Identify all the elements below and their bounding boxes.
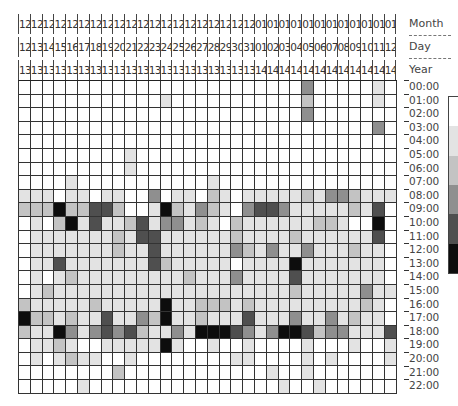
heatmap-cell [196,149,208,163]
day-tick-label: 10 [360,37,372,57]
heatmap-cell [290,108,302,122]
heatmap-cell [385,108,397,122]
heatmap-cell [314,299,326,313]
heatmap-cell [220,81,232,95]
heatmap-cell [149,203,161,217]
heatmap-cell [125,299,137,313]
month-tick-label: 01 [337,14,349,34]
day-tick-label: 11 [372,37,384,57]
heatmap-cell [243,81,255,95]
hour-tick [404,366,409,367]
heatmap-cell [137,285,149,299]
heatmap-cell [208,135,220,149]
heatmap-cell [137,231,149,245]
heatmap-cell [31,258,43,272]
heatmap-cell [290,380,302,394]
heatmap-cell [326,135,338,149]
heatmap-cell [314,190,326,204]
heatmap-cell [208,258,220,272]
heatmap-cell [66,176,78,190]
heatmap-cell [220,285,232,299]
heatmap-cell [196,366,208,380]
heatmap-cell [196,203,208,217]
heatmap-cell [326,326,338,340]
heatmap-cell [361,244,373,258]
heatmap-cell [220,366,232,380]
heatmap-cell [255,299,267,313]
heatmap-cell [326,203,338,217]
heatmap-cell [161,176,173,190]
heatmap-cell [279,312,291,326]
heatmap-cell [19,217,31,231]
heatmap-cell [373,312,385,326]
heatmap-cell [78,135,90,149]
heatmap-cell [102,380,114,394]
heatmap-cell [373,299,385,313]
hour-tick-label: 20:00 [409,352,439,366]
heatmap-cell [349,353,361,367]
heatmap-cell [302,244,314,258]
heatmap-cell [149,163,161,177]
heatmap-cell [113,163,125,177]
heatmap-cell [102,135,114,149]
heatmap-cell [326,122,338,136]
heatmap-cell [196,81,208,95]
heatmap-cell [314,326,326,340]
heatmap-cell [208,271,220,285]
heatmap-cell [314,203,326,217]
year-tick-label: 14 [278,60,290,80]
heatmap-cell [196,95,208,109]
heatmap-cell [220,108,232,122]
heatmap-cell [290,95,302,109]
heatmap-cell [279,122,291,136]
heatmap-cell [349,190,361,204]
hour-tick [404,257,409,258]
heatmap-cell [43,122,55,136]
heatmap-cell [113,203,125,217]
header-separator [409,35,451,36]
heatmap-cell [43,163,55,177]
heatmap-cell [255,135,267,149]
heatmap-cell [172,108,184,122]
heatmap-cell [326,353,338,367]
heatmap-cell [31,81,43,95]
heatmap-cell [125,217,137,231]
heatmap-cell [349,217,361,231]
heatmap-cell [54,122,66,136]
heatmap-cell [208,244,220,258]
heatmap-cell [361,285,373,299]
hour-tick [404,284,409,285]
heatmap-cell [314,366,326,380]
heatmap-cell [125,135,137,149]
heatmap-cell [385,339,397,353]
heatmap-cell [172,163,184,177]
heatmap-cell [231,366,243,380]
heatmap-cell [208,95,220,109]
heatmap-cell [243,285,255,299]
heatmap-cell [361,122,373,136]
heatmap-cell [255,326,267,340]
heatmap-cell [31,122,43,136]
heatmap-cell [184,135,196,149]
heatmap-cell [314,353,326,367]
day-tick-label: 22 [136,37,148,57]
heatmap-cell [125,366,137,380]
heatmap-cell [66,326,78,340]
heatmap-cell [149,271,161,285]
heatmap-cell [255,108,267,122]
month-tick-label: 01 [278,14,290,34]
heatmap-cell [231,258,243,272]
heatmap-cell [373,271,385,285]
heatmap-cell [279,108,291,122]
month-tick-label: 12 [183,14,195,34]
heatmap-cell [54,285,66,299]
heatmap-cell [220,380,232,394]
year-tick-label: 13 [77,60,89,80]
heatmap-cell [43,176,55,190]
heatmap-cell [267,122,279,136]
heatmap-cell [149,285,161,299]
heatmap-cell [243,231,255,245]
heatmap-cell [302,312,314,326]
heatmap-cell [172,258,184,272]
heatmap-cell [149,339,161,353]
